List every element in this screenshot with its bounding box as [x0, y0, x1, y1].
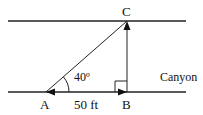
- angle-arc-icon: [64, 77, 70, 92]
- canyon-label: Canyon: [160, 70, 197, 84]
- diagram-canvas: C A B 40º 50 ft Canyon: [0, 0, 203, 115]
- canyon-diagram: C A B 40º 50 ft Canyon: [0, 0, 203, 115]
- arrowhead-c-icon: [124, 21, 131, 30]
- point-b-label: B: [122, 97, 131, 112]
- point-c-label: C: [122, 4, 131, 19]
- distance-label: 50 ft: [74, 97, 99, 112]
- arrowhead-a-icon: [46, 89, 55, 96]
- point-a-label: A: [40, 97, 50, 112]
- angle-label: 40º: [74, 70, 90, 84]
- arrowhead-b-icon: [118, 89, 127, 96]
